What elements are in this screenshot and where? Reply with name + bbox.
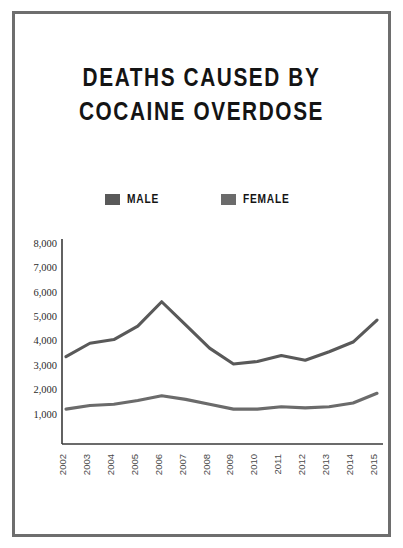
- chart-svg: 1,0002,0003,0004,0005,0006,0007,0008,000…: [0, 0, 403, 548]
- x-tick-2006: 2006: [153, 454, 164, 475]
- series-line-male: [66, 302, 377, 364]
- x-tick-2007: 2007: [177, 454, 188, 475]
- chart-poster: DEATHS CAUSED BY COCAINE OVERDOSE MALE F…: [0, 0, 403, 548]
- y-tick-5000: 5,000: [33, 311, 57, 322]
- x-tick-2012: 2012: [296, 454, 307, 475]
- y-tick-7000: 7,000: [33, 262, 57, 273]
- y-tick-2000: 2,000: [33, 384, 57, 395]
- x-tick-2011: 2011: [272, 454, 283, 474]
- plot-area: 1,0002,0003,0004,0005,0006,0007,0008,000…: [0, 0, 403, 548]
- x-tick-2015: 2015: [368, 454, 379, 475]
- y-tick-4000: 4,000: [33, 335, 57, 346]
- x-tick-2002: 2002: [57, 454, 68, 475]
- series-line-female: [66, 393, 377, 409]
- x-axis-tick-labels: 2002200320042005200620072008200920102011…: [57, 454, 379, 475]
- x-tick-2013: 2013: [320, 454, 331, 475]
- y-tick-8000: 8,000: [33, 238, 57, 249]
- y-tick-6000: 6,000: [33, 287, 57, 298]
- x-tick-2005: 2005: [129, 454, 140, 475]
- x-tick-2010: 2010: [248, 454, 259, 475]
- x-tick-2014: 2014: [344, 454, 355, 475]
- y-tick-3000: 3,000: [33, 360, 57, 371]
- y-axis-tick-labels: 1,0002,0003,0004,0005,0006,0007,0008,000: [33, 238, 57, 420]
- y-tick-1000: 1,000: [33, 409, 57, 420]
- x-tick-2003: 2003: [81, 454, 92, 475]
- x-tick-2008: 2008: [201, 454, 212, 475]
- x-tick-2009: 2009: [224, 454, 235, 475]
- x-tick-2004: 2004: [105, 454, 116, 475]
